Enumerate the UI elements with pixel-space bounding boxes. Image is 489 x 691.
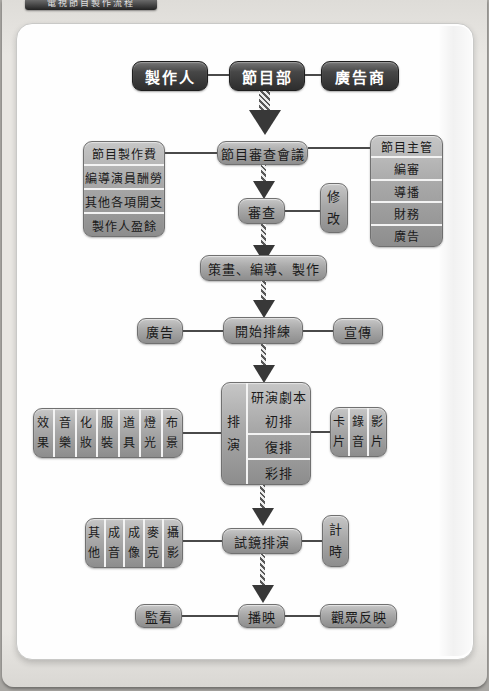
- media-item-label: 錄 音: [352, 412, 365, 453]
- crafts-item-label: 效 果: [37, 413, 50, 454]
- connector-rehearsal-media: [311, 431, 330, 433]
- rehearsal-row-label: 研演劇本: [251, 387, 307, 406]
- crafts-item-label: 道 具: [123, 413, 136, 454]
- tech-item: 攝 影: [162, 519, 182, 567]
- supervisor-item-label: 編審: [394, 160, 420, 177]
- hatched-line: [261, 224, 266, 245]
- node-rehearsal-box: 排 演 研演劇本 初排 復排 彩排: [221, 382, 311, 485]
- crafts-item-label: 服 裝: [101, 413, 114, 454]
- supervisor-item: 導播: [371, 179, 442, 201]
- hatched-line: [261, 344, 266, 365]
- node-planning-label: 策畫、編導、製作: [208, 259, 320, 278]
- crafts-item: 音 樂: [53, 409, 74, 457]
- node-planning: 策畫、編導、製作: [200, 255, 327, 281]
- node-broadcast: 播映: [238, 604, 285, 628]
- node-review: 審查: [238, 198, 285, 224]
- node-advertiser: 廣告商: [321, 61, 399, 91]
- node-review-meeting-label: 節目審查會議: [221, 144, 305, 163]
- rehearsal-row: 彩排: [248, 458, 310, 484]
- node-audience-feedback: 觀眾反映: [320, 604, 397, 628]
- connector-tech-camera: [183, 540, 222, 542]
- connector-ad-rehearsal: [183, 330, 223, 332]
- tech-item-label: 其 他: [88, 523, 101, 564]
- hatched-line: [261, 281, 266, 300]
- chapter-tab-label: 電視節目製作流程: [47, 0, 135, 10]
- arrow-down-icon: [249, 110, 281, 135]
- supervisor-item: 財務: [371, 201, 442, 223]
- hatched-line: [260, 485, 265, 508]
- crafts-item: 服 裝: [96, 409, 117, 457]
- connector-camera-timing: [302, 540, 322, 542]
- tech-item-label: 成 音: [108, 523, 121, 564]
- budget-item: 編導演員酬勞: [84, 164, 164, 188]
- crafts-item-label: 燈 光: [144, 413, 157, 454]
- rehearsal-row: 初排: [248, 409, 310, 433]
- budget-item-label: 其他各項開支: [85, 193, 163, 210]
- budget-item: 節目製作費: [84, 142, 164, 164]
- hatched-line: [261, 165, 266, 181]
- arrow-down-icon: [253, 181, 275, 199]
- supervisor-item: 廣告: [371, 224, 442, 246]
- tech-item-label: 麥 克: [147, 523, 160, 564]
- tech-item: 其 他: [86, 519, 104, 567]
- connector-producer-dept: [208, 74, 229, 76]
- node-budget-stack: 節目製作費 編導演員酬勞 其他各項開支 製作人盈餘: [83, 141, 165, 237]
- node-producer-label: 製作人: [145, 66, 196, 87]
- budget-item: 製作人盈餘: [84, 212, 164, 236]
- node-crafts-stack: 效 果 音 樂 化 妝 服 裝 道 具 燈 光 布 景: [33, 408, 183, 458]
- node-publicity-label: 宣傳: [344, 322, 372, 341]
- rehearsal-side-label-cell: 排 演: [222, 383, 248, 484]
- rehearsal-rows: 研演劇本 初排 復排 彩排: [248, 383, 310, 484]
- node-program-dept: 節目部: [229, 61, 305, 91]
- rehearsal-row-label: 復排: [265, 437, 293, 456]
- media-item: 卡 片: [331, 408, 348, 456]
- node-ad: 廣告: [137, 318, 183, 344]
- node-review-meeting: 節目審查會議: [217, 141, 308, 165]
- node-monitor-label: 監看: [145, 607, 173, 626]
- node-rehearsal-start-label: 開始排練: [235, 321, 291, 340]
- rehearsal-row-label: 彩排: [265, 463, 293, 482]
- node-timing-label: 計 時: [329, 519, 343, 563]
- crafts-item: 效 果: [34, 409, 53, 457]
- crafts-item: 燈 光: [139, 409, 160, 457]
- budget-item: 其他各項開支: [84, 188, 164, 212]
- node-rehearsal-start: 開始排練: [223, 317, 303, 344]
- budget-item-label: 節目製作費: [92, 145, 157, 162]
- node-ad-label: 廣告: [146, 322, 174, 341]
- rehearsal-row-label: 初排: [265, 411, 293, 430]
- crafts-item: 道 具: [118, 409, 139, 457]
- rehearsal-side-label: 排 演: [227, 411, 241, 455]
- arrow-down-icon: [252, 585, 274, 603]
- supervisor-item-label: 財務: [394, 205, 420, 222]
- media-item: 影 片: [367, 408, 386, 456]
- rehearsal-row: 研演劇本: [248, 383, 310, 409]
- connector-budget-meeting: [165, 152, 217, 154]
- node-producer: 製作人: [132, 61, 208, 91]
- node-camera-rehearsal-label: 試鏡排演: [234, 532, 290, 551]
- media-item-label: 卡 片: [333, 412, 346, 453]
- rehearsal-row: 復排: [248, 433, 310, 459]
- tech-item-label: 攝 影: [167, 523, 180, 564]
- hatched-band: [259, 91, 270, 110]
- tech-item: 麥 克: [143, 519, 163, 567]
- crafts-item-label: 化 妝: [80, 413, 93, 454]
- crafts-item: 布 景: [161, 409, 182, 457]
- chapter-tab: 電視節目製作流程: [25, 0, 157, 10]
- hatched-line: [260, 554, 265, 585]
- node-media-stack: 卡 片 錄 音 影 片: [330, 407, 387, 457]
- connector-dept-advertiser: [305, 74, 321, 76]
- node-supervisor-stack: 節目主管 編審 導播 財務 廣告: [370, 135, 443, 247]
- node-tech-stack: 其 他 成 音 成 像 麥 克 攝 影: [85, 518, 183, 568]
- node-monitor: 監看: [135, 604, 182, 628]
- crafts-item: 化 妝: [75, 409, 96, 457]
- arrow-down-icon: [253, 365, 275, 383]
- node-program-dept-label: 節目部: [242, 66, 293, 87]
- connector-monitor-broadcast: [182, 615, 238, 617]
- media-item: 錄 音: [348, 408, 367, 456]
- arrow-down-icon: [253, 300, 275, 318]
- media-item-label: 影 片: [371, 412, 384, 453]
- connector-crafts-rehearsal: [183, 432, 221, 434]
- node-broadcast-label: 播映: [248, 607, 276, 626]
- screenshot-root: 電視節目製作流程 製作人 節目部 廣告商 節目製作費 編導演員酬勞 其他各項開支…: [0, 0, 489, 691]
- node-camera-rehearsal: 試鏡排演: [222, 528, 302, 554]
